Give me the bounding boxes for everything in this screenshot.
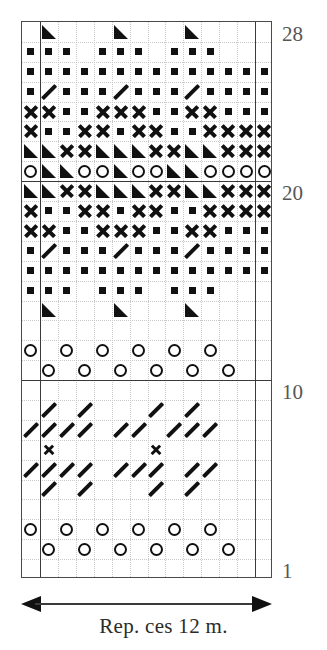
symbol-square xyxy=(99,247,106,254)
chart-cell xyxy=(201,440,219,460)
symbol-square xyxy=(63,128,70,135)
symbol-circle xyxy=(78,543,91,556)
symbol-triangle xyxy=(42,164,56,178)
chart-cell xyxy=(94,400,112,420)
chart-cell xyxy=(40,519,58,539)
chart-cell xyxy=(58,201,76,221)
symbol-square xyxy=(225,247,232,254)
symbol-square xyxy=(45,287,52,294)
symbol-circle xyxy=(96,344,109,357)
chart-cell xyxy=(76,340,94,360)
chart-cell xyxy=(201,121,219,141)
symbol-cross xyxy=(113,223,128,238)
chart-cell xyxy=(237,261,255,281)
chart-cell xyxy=(58,519,76,539)
symbol-circle xyxy=(132,344,145,357)
symbol-slash xyxy=(184,84,200,100)
chart-cell xyxy=(22,460,40,480)
chart-cell xyxy=(58,400,76,420)
symbol-circle xyxy=(258,165,271,178)
chart-cell xyxy=(130,42,148,62)
symbol-triangle xyxy=(114,303,128,317)
symbol-square xyxy=(81,88,88,95)
symbol-slash xyxy=(77,422,93,438)
symbol-circle xyxy=(60,523,73,536)
symbol-square xyxy=(99,88,106,95)
chart-cell xyxy=(183,42,201,62)
symbol-cross xyxy=(221,124,236,139)
symbol-square xyxy=(207,88,214,95)
chart-cell xyxy=(201,480,219,500)
symbol-slash xyxy=(41,462,57,478)
symbol-slash xyxy=(41,422,57,438)
chart-cell xyxy=(22,141,40,161)
chart-cell xyxy=(165,380,183,400)
chart-cell xyxy=(130,201,148,221)
symbol-square xyxy=(63,88,70,95)
chart-cell xyxy=(165,340,183,360)
symbol-square xyxy=(117,267,124,274)
chart-cell xyxy=(255,62,273,82)
symbol-square xyxy=(45,68,52,75)
symbol-cross xyxy=(149,203,164,218)
symbol-cross xyxy=(239,184,254,199)
chart-cell xyxy=(130,320,148,340)
chart-cell xyxy=(148,141,166,161)
chart-cell xyxy=(148,380,166,400)
chart-cell xyxy=(237,181,255,201)
chart-cell xyxy=(112,121,130,141)
chart-cell xyxy=(130,22,148,42)
symbol-square xyxy=(171,88,178,95)
symbol-square xyxy=(261,247,268,254)
chart-cell xyxy=(112,380,130,400)
symbol-circle xyxy=(24,523,37,536)
chart-cell xyxy=(40,82,58,102)
chart-cell xyxy=(148,400,166,420)
symbol-cross xyxy=(59,184,74,199)
chart-cell xyxy=(219,261,237,281)
symbol-square xyxy=(81,68,88,75)
symbol-square xyxy=(81,227,88,234)
chart-cell xyxy=(76,201,94,221)
symbol-circle xyxy=(24,344,37,357)
chart-cell xyxy=(255,499,273,519)
symbol-slash xyxy=(59,462,75,478)
symbol-slash xyxy=(131,422,147,438)
symbol-triangle xyxy=(114,164,128,178)
chart-cell xyxy=(165,261,183,281)
chart-cell xyxy=(76,42,94,62)
chart-cell xyxy=(183,221,201,241)
chart-cell xyxy=(201,460,219,480)
symbol-triangle xyxy=(203,184,217,198)
chart-cell xyxy=(255,22,273,42)
symbol-square xyxy=(261,68,268,75)
symbol-square xyxy=(243,227,250,234)
chart-cell xyxy=(237,420,255,440)
chart-cell xyxy=(148,62,166,82)
chart-cell xyxy=(183,102,201,122)
chart-cell xyxy=(255,261,273,281)
chart-cell xyxy=(130,400,148,420)
chart-cell xyxy=(40,201,58,221)
chart-cell xyxy=(165,281,183,301)
chart-cell xyxy=(130,440,148,460)
symbol-cross xyxy=(167,144,182,159)
symbol-square xyxy=(27,247,34,254)
chart-cell xyxy=(165,480,183,500)
chart-cell xyxy=(237,380,255,400)
chart-cell xyxy=(255,440,273,460)
chart-cell xyxy=(201,360,219,380)
symbol-slash xyxy=(184,481,200,497)
row-number-20: 20 xyxy=(282,183,303,204)
symbol-cross xyxy=(149,124,164,139)
chart-cell xyxy=(76,62,94,82)
symbol-circle xyxy=(186,364,199,377)
chart-cell xyxy=(22,559,40,579)
chart-cell xyxy=(112,519,130,539)
chart-cell xyxy=(112,340,130,360)
chart-cell xyxy=(58,221,76,241)
symbol-triangle xyxy=(185,144,199,158)
symbol-cross xyxy=(203,203,218,218)
chart-cell xyxy=(76,82,94,102)
chart-cell xyxy=(94,440,112,460)
